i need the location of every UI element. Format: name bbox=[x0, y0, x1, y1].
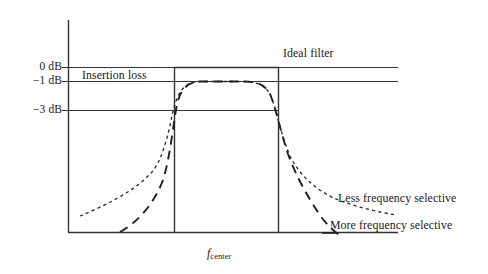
insertion-loss-label: Insertion loss bbox=[82, 68, 147, 83]
y-tick-minus3db: −3 dB bbox=[0, 103, 62, 115]
less-selective-label: Less frequency selective bbox=[338, 191, 456, 206]
y-tick-minus1db: −1 dB bbox=[0, 74, 62, 86]
filter-response-figure: 0 dB −1 dB −3 dB Insertion loss Ideal fi… bbox=[0, 0, 488, 274]
x-axis-label-subscript: center bbox=[210, 251, 231, 261]
more-selective-label: More frequency selective bbox=[330, 218, 452, 233]
y-tick-0db: 0 dB bbox=[0, 60, 62, 72]
x-axis-label: fcenter bbox=[207, 246, 231, 261]
ideal-filter-label: Ideal filter bbox=[283, 46, 334, 61]
ideal-filter-curve bbox=[175, 68, 279, 233]
more-selective-curve bbox=[120, 82, 342, 238]
